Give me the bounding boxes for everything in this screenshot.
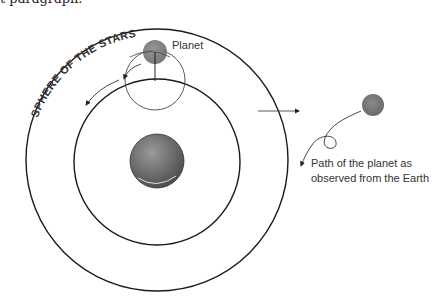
orbit-direction-arrow [86, 80, 119, 105]
sphere-label: SPHERE OF THE STARS [28, 27, 137, 119]
observed-planet-icon [362, 94, 384, 116]
geocentric-diagram: SPHERE OF THE STARS Planet [0, 0, 443, 298]
planet-label: Planet [172, 39, 203, 51]
caption-line-2: observed from the Earth [311, 171, 429, 186]
earth-icon [130, 134, 184, 188]
caption-line-1: Path of the planet as [311, 156, 429, 171]
path-caption: Path of the planet as observed from the … [311, 156, 429, 186]
